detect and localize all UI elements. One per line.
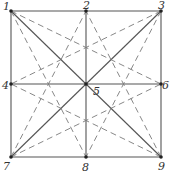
node-5 [84,82,88,86]
node-label-9: 9 [158,160,165,173]
node-9 [159,155,163,159]
node-label-1: 1 [3,0,10,13]
node-label-2: 2 [82,0,90,12]
node-8 [84,155,88,159]
node-7 [9,155,13,159]
grid-diagram: 123456789 [0,0,170,174]
node-label-8: 8 [82,161,89,174]
node-label-7: 7 [3,160,10,173]
node-label-4: 4 [1,79,9,92]
node-label-6: 6 [162,79,169,92]
node-label-3: 3 [158,0,165,12]
node-label-5: 5 [93,85,100,98]
node-4 [9,82,13,86]
